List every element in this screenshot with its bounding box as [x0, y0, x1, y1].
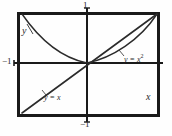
y-axis-label: y	[22, 26, 26, 36]
curve-annotation-line: y = x	[44, 94, 61, 102]
curve-annotation-parabola-text: y = x	[124, 55, 141, 64]
curve-annotation-parabola: y = x2	[124, 53, 144, 64]
curve-annotation-parabola-exponent: 2	[141, 53, 144, 59]
x-axis-label: x	[146, 92, 150, 102]
tick-label-y-negative-one: −1	[80, 120, 90, 129]
tick-label-y-positive-one: 1	[83, 1, 88, 10]
math-figure-panel: 1 −1 −1 y x y = x2 y = x	[0, 0, 172, 136]
tick-label-x-negative-one: −1	[2, 57, 12, 66]
plot-canvas	[0, 0, 172, 136]
